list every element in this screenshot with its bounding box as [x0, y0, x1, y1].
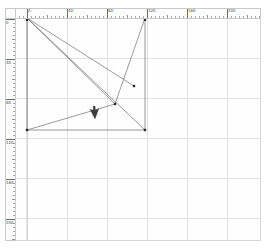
ruler-corner-box[interactable] — [5, 8, 16, 19]
ruler-tick-v — [13, 115, 15, 116]
vertical-ruler[interactable]: 04080120160200 — [5, 19, 16, 241]
ruler-tick-h — [247, 15, 248, 18]
ruler-tick-h — [23, 16, 24, 18]
ruler-tick-v — [13, 111, 15, 112]
ruler-label-v: 200 — [6, 220, 14, 225]
ruler-tick-h — [219, 16, 220, 18]
ruler-tick-h — [59, 16, 60, 18]
ruler-tick-h — [239, 16, 240, 18]
ruler-tick-v — [13, 231, 15, 232]
ruler-tick-v — [13, 151, 15, 152]
ruler-tick-v — [13, 147, 15, 148]
ruler-tick-h — [71, 16, 72, 18]
ruler-tick-v — [13, 103, 15, 104]
ruler-tick-v — [13, 203, 15, 204]
ruler-label-v: 80 — [6, 100, 11, 105]
ruler-tick-h — [183, 16, 184, 18]
ruler-tick-v — [13, 123, 15, 124]
ruler-tick-h — [79, 16, 80, 18]
ruler-tick-v — [13, 67, 15, 68]
ruler-tick-v — [13, 51, 15, 52]
app-root: 04080120160200 04080120160200 — [0, 0, 267, 251]
ruler-tick-v — [13, 63, 15, 64]
ruler-tick-v — [13, 23, 15, 24]
ruler-tick-v — [13, 207, 15, 208]
shape-node[interactable] — [144, 19, 146, 21]
ruler-tick-h — [231, 16, 232, 18]
ruler-tick-h — [167, 15, 168, 18]
ruler-tick-h — [179, 16, 180, 18]
ruler-tick-v — [13, 31, 15, 32]
shape-node[interactable] — [26, 129, 28, 131]
ruler-label-v: 160 — [6, 180, 14, 185]
ruler-tick-h — [119, 16, 120, 18]
ruler-tick-h — [251, 16, 252, 18]
ruler-tick-v — [12, 199, 15, 200]
ruler-tick-h — [35, 16, 36, 18]
ruler-tick-h — [207, 15, 208, 18]
ruler-tick-v — [12, 159, 15, 160]
ruler-tick-h — [163, 16, 164, 18]
drawing-canvas[interactable] — [16, 19, 261, 241]
ruler-tick-v — [13, 235, 15, 236]
ruler-tick-h — [175, 16, 176, 18]
ruler-tick-h — [143, 16, 144, 18]
shape-node[interactable] — [114, 103, 116, 105]
ruler-tick-v — [12, 39, 15, 40]
ruler-tick-v — [13, 211, 15, 212]
vector-artwork[interactable] — [16, 19, 261, 241]
ruler-tick-v — [13, 127, 15, 128]
ruler-tick-h — [111, 16, 112, 18]
ruler-tick-v — [13, 155, 15, 156]
ruler-label-h: 120 — [148, 8, 156, 13]
ruler-tick-h — [135, 16, 136, 18]
ruler-label-h: 200 — [228, 8, 236, 13]
ruler-tick-h — [95, 16, 96, 18]
ruler-label-v: 120 — [6, 140, 14, 145]
ruler-tick-h — [151, 16, 152, 18]
ruler-tick-h — [47, 15, 48, 18]
ruler-tick-v — [13, 167, 15, 168]
ruler-tick-h — [87, 15, 88, 18]
ruler-tick-h — [255, 16, 256, 18]
ruler-tick-v — [13, 187, 15, 188]
shape-node[interactable] — [133, 85, 135, 87]
ruler-tick-h — [211, 16, 212, 18]
shape-node[interactable] — [26, 19, 28, 21]
ruler-tick-v — [13, 47, 15, 48]
ruler-tick-h — [51, 16, 52, 18]
ruler-tick-h — [215, 16, 216, 18]
ruler-tick-v — [13, 95, 15, 96]
ruler-tick-h — [235, 16, 236, 18]
ruler-tick-h — [115, 16, 116, 18]
ruler-label-h: 80 — [108, 8, 113, 13]
ruler-tick-v — [13, 195, 15, 196]
ruler-tick-h — [75, 16, 76, 18]
ruler-tick-v — [13, 87, 15, 88]
ruler-label-h: 40 — [68, 8, 73, 13]
ruler-tick-v — [13, 107, 15, 108]
ruler-tick-h — [19, 16, 20, 18]
ruler-tick-v — [13, 215, 15, 216]
ruler-tick-v — [13, 27, 15, 28]
ruler-tick-v — [13, 83, 15, 84]
ruler-tick-h — [123, 16, 124, 18]
ruler-tick-h — [259, 16, 260, 18]
ruler-tick-v — [13, 171, 15, 172]
ruler-label-v: 0 — [6, 20, 9, 25]
ruler-label-v: 40 — [6, 60, 11, 65]
ruler-label-h: 160 — [188, 8, 196, 13]
ruler-tick-h — [131, 16, 132, 18]
ruler-tick-h — [155, 16, 156, 18]
ruler-tick-h — [99, 16, 100, 18]
ruler-tick-v — [13, 191, 15, 192]
ruler-label-h: 0 — [28, 8, 31, 13]
shape-node[interactable] — [144, 129, 146, 131]
ruler-tick-v — [13, 43, 15, 44]
ruler-tick-h — [127, 15, 128, 18]
ruler-tick-h — [83, 16, 84, 18]
horizontal-ruler[interactable]: 04080120160200 — [16, 8, 261, 19]
ruler-tick-h — [191, 16, 192, 18]
ruler-tick-h — [103, 16, 104, 18]
ruler-tick-v — [13, 227, 15, 228]
